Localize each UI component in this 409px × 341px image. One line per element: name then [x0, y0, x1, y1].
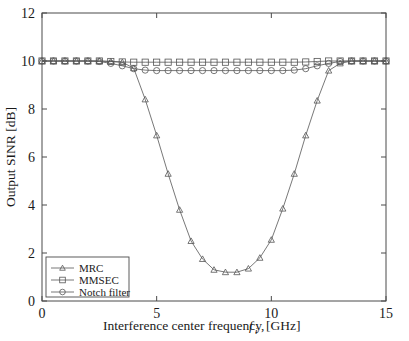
x-axis-title: Interference center frequency, f i [GHz] [103, 318, 300, 336]
x-axis-title-units: [GHz] [266, 318, 300, 333]
y-tick-label: 2 [28, 246, 35, 261]
legend-label: MRC [79, 262, 103, 274]
legend-label: MMSEC [79, 274, 119, 286]
y-tick-label: 4 [28, 198, 35, 213]
y-tick-label: 6 [28, 150, 35, 165]
y-axis-title: Output SINR [dB] [3, 107, 18, 207]
y-axis-title-text: Output SINR [dB] [3, 107, 18, 207]
y-tick-label: 10 [21, 54, 35, 69]
y-tick-label: 12 [21, 6, 35, 21]
figure-container: 051015 024681012 Output SINR [dB] Interf… [0, 0, 409, 341]
legend-label: Notch filter [79, 286, 130, 298]
x-axis-title-main: Interference center frequency, [103, 318, 264, 333]
y-tick-labels: 024681012 [21, 6, 35, 309]
x-tick-label: 0 [39, 306, 46, 321]
y-tick-label: 0 [28, 294, 35, 309]
x-tick-label: 15 [379, 306, 393, 321]
line-chart: 051015 024681012 Output SINR [dB] Interf… [0, 0, 409, 341]
y-tick-label: 8 [28, 102, 35, 117]
legend: MRCMMSECNotch filter [46, 257, 130, 298]
